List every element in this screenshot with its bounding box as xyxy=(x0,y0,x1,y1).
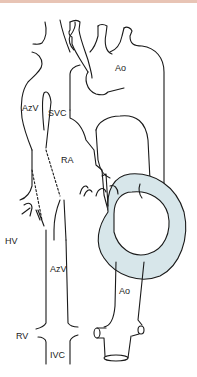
right-atrium-outline xyxy=(54,110,108,240)
left-atrium-outline xyxy=(96,116,150,180)
ventricle-wall xyxy=(98,174,186,279)
heart-diagram: Ao AzV SVC RA HV AzV RV IVC Ao xyxy=(0,0,197,377)
inferior-columns xyxy=(36,230,78,364)
label-ivc: IVC xyxy=(50,350,66,360)
label-ao-top: Ao xyxy=(115,63,126,73)
label-ra: RA xyxy=(61,155,74,165)
label-azv-bottom: AzV xyxy=(50,264,67,274)
label-azv-top: AzV xyxy=(22,103,39,113)
azygos-vein-outline xyxy=(21,22,46,150)
label-rv: RV xyxy=(16,331,28,341)
superior-vena-cava-outline xyxy=(43,20,81,148)
label-ao-bottom: Ao xyxy=(119,286,130,296)
label-hv: HV xyxy=(5,236,18,246)
label-svc: SVC xyxy=(48,108,67,118)
